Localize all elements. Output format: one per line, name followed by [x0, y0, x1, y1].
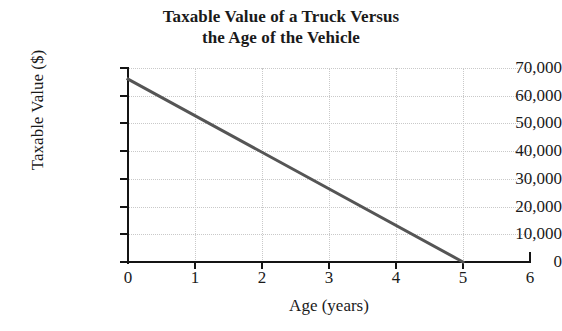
chart-title: Taxable Value of a Truck Versus the Age …: [0, 6, 562, 48]
x-axis-tick-label: 1: [175, 269, 215, 286]
x-axis-tick-label: 5: [443, 269, 483, 286]
chart-title-line-2: the Age of the Vehicle: [0, 27, 562, 48]
y-axis-tick: [120, 95, 127, 97]
data-series-layer: [128, 68, 530, 262]
y-axis-tick: [120, 67, 127, 69]
y-axis-tick: [120, 261, 127, 263]
chart-title-line-1: Taxable Value of a Truck Versus: [0, 6, 562, 27]
x-axis-tick-label: 6: [510, 269, 550, 286]
y-axis-tick: [120, 178, 127, 180]
x-axis-tick-label: 2: [242, 269, 282, 286]
y-axis-tick: [120, 206, 127, 208]
y-axis-tick: [120, 122, 127, 124]
series-line-taxable-value: [128, 79, 463, 262]
y-axis-tick: [120, 150, 127, 152]
x-axis-tick-label: 4: [376, 269, 416, 286]
y-axis-tick: [120, 233, 127, 235]
x-axis-tick-label: 3: [309, 269, 349, 286]
x-axis-label: Age (years): [128, 296, 530, 316]
x-axis-tick-label: 0: [108, 269, 148, 286]
y-axis-label: Taxable Value ($): [28, 10, 48, 210]
